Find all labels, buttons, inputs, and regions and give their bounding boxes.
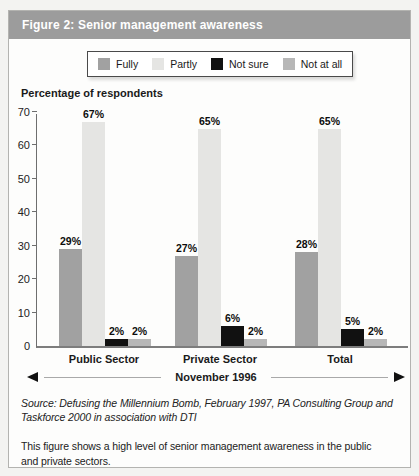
- legend-label-not-sure: Not sure: [229, 58, 269, 70]
- source-line-1: Source: Defusing the Millennium Bomb, Fe…: [21, 397, 393, 409]
- legend: FullyPartlyNot sureNot at all: [87, 51, 353, 77]
- legend-label-partly: Partly: [170, 58, 197, 70]
- bar-fully-private-sector: [175, 256, 198, 346]
- legend-item-fully: Fully: [98, 58, 138, 70]
- arrow-left-icon: [27, 372, 38, 382]
- y-tick-label-20: 20: [4, 272, 30, 286]
- y-tick-label-50: 50: [4, 172, 30, 186]
- bar-value-label-not-at-all-total: 2%: [359, 325, 393, 337]
- legend-item-not-sure: Not sure: [211, 58, 269, 70]
- bar-partly-total: [318, 129, 341, 346]
- category-label-total: Total: [280, 353, 400, 365]
- y-tick-mark: [32, 312, 37, 313]
- y-tick-mark: [32, 245, 37, 246]
- plot-area: 01020304050607029%67%2%2%27%65%6%2%28%65…: [36, 114, 408, 348]
- bar-not-at-all-private-sector: [244, 339, 267, 346]
- bar-value-label-partly-total: 65%: [313, 115, 347, 127]
- legend-swatch-fully: [98, 58, 110, 70]
- bar-fully-total: [295, 252, 318, 346]
- category-labels: Public SectorPrivate SectorTotal: [36, 353, 408, 367]
- legend-item-partly: Partly: [152, 58, 197, 70]
- figure-title: Figure 2: Senior management awareness: [22, 18, 263, 32]
- bar-value-label-partly-public-sector: 67%: [77, 108, 111, 120]
- bar-value-label-not-at-all-public-sector: 2%: [123, 325, 157, 337]
- source-note: Source: Defusing the Millennium Bomb, Fe…: [21, 396, 401, 424]
- y-tick-mark: [32, 211, 37, 212]
- source-line-2: Taskforce 2000 in association with DTI: [21, 411, 197, 423]
- caption-line-2: and private sectors.: [21, 455, 111, 467]
- y-tick-label-70: 70: [4, 105, 30, 119]
- bar-not-at-all-public-sector: [128, 339, 151, 346]
- bar-partly-public-sector: [82, 122, 105, 346]
- category-label-private-sector: Private Sector: [160, 353, 280, 365]
- legend-swatch-partly: [152, 58, 164, 70]
- figure-panel: Figure 2: Senior management awareness Fu…: [8, 10, 411, 468]
- y-tick-label-40: 40: [4, 205, 30, 219]
- y-tick-label-0: 0: [4, 339, 30, 353]
- bar-value-label-not-sure-private-sector: 6%: [216, 312, 250, 324]
- category-label-public-sector: Public Sector: [44, 353, 164, 365]
- bar-value-label-not-at-all-private-sector: 2%: [239, 325, 273, 337]
- legend-swatch-not-at-all: [283, 58, 295, 70]
- bar-not-sure-public-sector: [105, 339, 128, 346]
- legend-swatch-not-sure: [211, 58, 223, 70]
- y-tick-label-30: 30: [4, 239, 30, 253]
- y-tick-label-60: 60: [4, 138, 30, 152]
- legend-item-not-at-all: Not at all: [283, 58, 342, 70]
- axis-note-line-left: [44, 377, 161, 378]
- bar-fully-public-sector: [59, 249, 82, 346]
- legend-label-not-at-all: Not at all: [301, 58, 342, 70]
- y-tick-mark: [32, 144, 37, 145]
- axis-note-line-right: [271, 377, 388, 378]
- figure-title-bar: Figure 2: Senior management awareness: [9, 11, 410, 39]
- y-tick-label-10: 10: [4, 306, 30, 320]
- x-axis-note-row: November 1996: [27, 370, 405, 384]
- y-tick-mark: [32, 111, 37, 112]
- bar-not-at-all-total: [364, 339, 387, 346]
- y-tick-mark: [32, 178, 37, 179]
- x-axis-note: November 1996: [167, 371, 264, 383]
- figure-caption: This figure shows a high level of senior…: [21, 439, 401, 468]
- y-tick-mark: [32, 278, 37, 279]
- y-axis-title: Percentage of respondents: [21, 87, 163, 99]
- legend-label-fully: Fully: [116, 58, 138, 70]
- bar-value-label-partly-private-sector: 65%: [193, 115, 227, 127]
- caption-line-1: This figure shows a high level of senior…: [21, 440, 371, 452]
- arrow-right-icon: [394, 372, 405, 382]
